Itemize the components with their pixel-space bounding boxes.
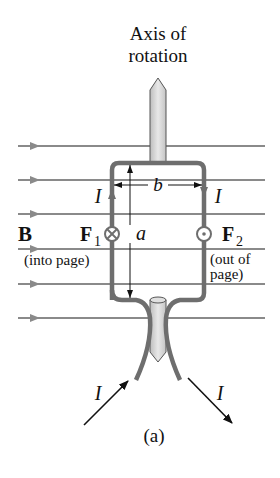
axis-title-line2: rotation (128, 45, 188, 66)
current-in-label: I (94, 382, 103, 404)
dim-b-label: b (153, 174, 163, 195)
current-out-arrow-icon (188, 378, 232, 423)
current-in-arrow-icon (84, 381, 128, 425)
lower-shaft (150, 300, 166, 362)
out-of-page-symbol-icon (197, 227, 211, 241)
field-label-b: B (18, 222, 32, 246)
force1-label: F (80, 223, 92, 245)
current-up-arrow-icon (108, 189, 116, 199)
field-arrow-icon (30, 314, 40, 322)
current-down-arrow-icon (200, 187, 208, 197)
force2-label: F (222, 223, 234, 245)
axis-title-line1: Axis of (130, 23, 187, 44)
upper-shaft (150, 78, 166, 163)
force1-subscript: 1 (94, 234, 101, 249)
current-label-left: I (94, 185, 103, 207)
force2-note-line2: page) (210, 266, 243, 283)
field-arrow-icon (30, 142, 40, 150)
field-arrow-icon (30, 280, 40, 288)
force2-subscript: 2 (236, 234, 243, 249)
current-loop-left-lead (112, 290, 150, 380)
current-label-right: I (214, 185, 223, 207)
field-arrow-icon (30, 210, 40, 218)
field-arrow-icon (30, 176, 40, 184)
motor-loop-diagram: Axis of rotation b a I I F (0, 0, 280, 478)
lower-shaft-top (150, 297, 166, 303)
dim-a-label: a (136, 222, 146, 244)
figure-caption: (a) (143, 425, 164, 447)
current-out-label: I (216, 382, 225, 404)
into-page-symbol-icon (105, 227, 119, 241)
force1-note: (into page) (24, 252, 89, 269)
